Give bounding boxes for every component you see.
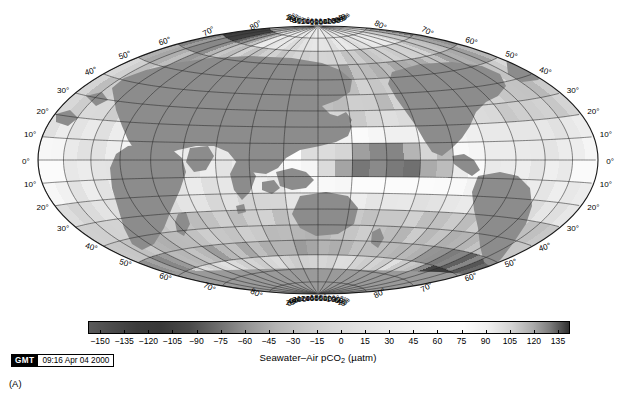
colorbar-tick-4 — [197, 330, 198, 334]
colorbar-tick-label-18: 120 — [527, 336, 541, 346]
colorbar-tick-label-6: −60 — [237, 336, 252, 346]
colorbar-tick-label-16: 90 — [481, 336, 491, 346]
colorbar-tick-16 — [486, 330, 487, 334]
world-map: 0°0°20°20°40°40°60°60°80°80°100°100°120°… — [0, 0, 636, 312]
colorbar-tick-1 — [124, 330, 125, 334]
colorbar-tick-2 — [148, 330, 149, 334]
colorbar-tick-label-2: −120 — [139, 336, 158, 346]
colorbar-tick-label-1: −135 — [115, 336, 134, 346]
colorbar-tick-13 — [413, 330, 414, 334]
colorbar-tick-14 — [437, 330, 438, 334]
colorbar-tick-8 — [293, 330, 294, 334]
colorbar-tick-label-9: −15 — [310, 336, 325, 346]
gmt-logo-tag: GMT — [11, 354, 38, 367]
colorbar-tick-label-14: 60 — [433, 336, 443, 346]
colorbar-title-units: (µatm) — [345, 352, 376, 363]
colorbar-tick-label-17: 105 — [503, 336, 517, 346]
gmt-datetime: 09:16 Apr 04 2000 — [38, 354, 114, 367]
colorbar-tick-label-5: −75 — [213, 336, 228, 346]
colorbar-tick-labels: −150−135−120−105−90−75−60−45−30−15015304… — [0, 336, 636, 350]
colorbar-tick-label-19: 135 — [551, 336, 565, 346]
colorbar-tick-19 — [558, 330, 559, 334]
gmt-timestamp: GMT 09:16 Apr 04 2000 — [11, 354, 114, 367]
colorbar-tick-11 — [365, 330, 366, 334]
colorbar-tick-5 — [221, 330, 222, 334]
colorbar-tick-17 — [510, 330, 511, 334]
colorbar-tick-label-11: 15 — [360, 336, 370, 346]
colorbar-tick-label-0: −150 — [90, 336, 109, 346]
colorbar-tick-15 — [462, 330, 463, 334]
colorbar-tickmarks — [88, 321, 570, 334]
map-svg — [0, 0, 636, 312]
colorbar-tick-label-4: −90 — [189, 336, 204, 346]
colorbar-tick-10 — [341, 330, 342, 334]
colorbar-tick-6 — [245, 330, 246, 334]
colorbar-title-main: Seawater–Air pCO — [259, 352, 341, 363]
colorbar-tick-7 — [269, 330, 270, 334]
colorbar-tick-12 — [389, 330, 390, 334]
colorbar-tick-label-13: 45 — [409, 336, 419, 346]
colorbar-tick-0 — [100, 330, 101, 334]
colorbar-tick-label-12: 30 — [385, 336, 395, 346]
colorbar-tick-label-8: −30 — [286, 336, 301, 346]
colorbar-tick-9 — [317, 330, 318, 334]
colorbar-tick-label-3: −105 — [163, 336, 182, 346]
colorbar: −150−135−120−105−90−75−60−45−30−15015304… — [0, 316, 636, 356]
colorbar-tick-label-7: −45 — [262, 336, 277, 346]
colorbar-tick-label-10: 0 — [339, 336, 344, 346]
colorbar-tick-18 — [534, 330, 535, 334]
figure-panel-a: 0°0°20°20°40°40°60°60°80°80°100°100°120°… — [0, 0, 636, 401]
panel-label: (A) — [9, 378, 22, 389]
colorbar-tick-3 — [172, 330, 173, 334]
colorbar-tick-label-15: 75 — [457, 336, 467, 346]
